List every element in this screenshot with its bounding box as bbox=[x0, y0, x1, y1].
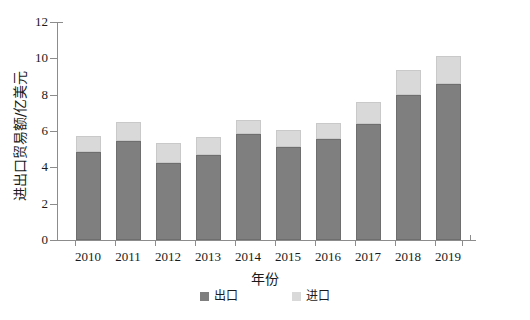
legend-label-export: 出口 bbox=[214, 290, 238, 302]
bar-segment-import bbox=[236, 120, 261, 134]
chart-legend: 出口 进口 bbox=[0, 290, 530, 302]
bar-column bbox=[436, 56, 461, 240]
bar-segment-import bbox=[156, 143, 181, 163]
bar-segment-export bbox=[116, 141, 141, 240]
legend-swatch-export-icon bbox=[200, 292, 209, 301]
y-axis-tick-label: 12 bbox=[14, 15, 48, 28]
x-axis-tick bbox=[75, 240, 76, 246]
x-axis-tick bbox=[275, 240, 276, 246]
bar-segment-export bbox=[276, 147, 301, 240]
bar-column bbox=[316, 123, 341, 240]
bar-column bbox=[236, 120, 261, 240]
x-axis-tick bbox=[355, 240, 356, 246]
bar-segment-import bbox=[276, 130, 301, 147]
y-axis-tick bbox=[50, 22, 57, 23]
bar-column bbox=[356, 102, 381, 240]
x-axis-tick bbox=[435, 240, 436, 246]
y-axis-tick bbox=[50, 95, 57, 96]
bar-segment-import bbox=[396, 70, 421, 95]
plot-area bbox=[57, 22, 475, 240]
x-axis-tick bbox=[155, 240, 156, 246]
bar-segment-import bbox=[196, 137, 221, 154]
bar-segment-export bbox=[396, 95, 421, 240]
bar-segment-export bbox=[156, 163, 181, 240]
legend-item-import: 进口 bbox=[292, 290, 330, 302]
y-axis-tick bbox=[50, 167, 57, 168]
y-axis-title: 进出口贸易额/亿美元 bbox=[9, 41, 29, 231]
bar-column bbox=[76, 136, 101, 240]
bar-column bbox=[196, 137, 221, 240]
bar-segment-import bbox=[356, 102, 381, 124]
x-axis-tick bbox=[462, 240, 463, 246]
bar-segment-import bbox=[436, 56, 461, 84]
bar-segment-export bbox=[356, 124, 381, 240]
x-axis-tick bbox=[235, 240, 236, 246]
y-axis-tick-label: 0 bbox=[14, 233, 48, 246]
x-axis-title: 年份 bbox=[0, 268, 530, 288]
x-axis-tick bbox=[195, 240, 196, 246]
legend-label-import: 进口 bbox=[306, 290, 330, 302]
bar-segment-import bbox=[116, 122, 141, 141]
x-axis-line bbox=[57, 240, 476, 241]
y-axis-tick bbox=[50, 58, 57, 59]
x-axis-tick bbox=[315, 240, 316, 246]
x-axis-tick bbox=[115, 240, 116, 246]
bar-segment-export bbox=[76, 152, 101, 240]
bar-column bbox=[156, 143, 181, 240]
bar-column bbox=[276, 130, 301, 240]
bar-segment-export bbox=[316, 139, 341, 240]
bar-segment-export bbox=[196, 155, 221, 240]
bar-column bbox=[396, 70, 421, 240]
y-axis-tick bbox=[50, 240, 57, 241]
legend-item-export: 出口 bbox=[200, 290, 238, 302]
legend-swatch-import-icon bbox=[292, 292, 301, 301]
bar-chart: 024681012 201020112012201320142015201620… bbox=[0, 0, 530, 320]
bar-column bbox=[116, 122, 141, 240]
y-axis-tick bbox=[50, 204, 57, 205]
bar-segment-export bbox=[236, 134, 261, 240]
y-axis-tick bbox=[50, 131, 57, 132]
bar-segment-export bbox=[436, 84, 461, 240]
bar-segment-import bbox=[76, 136, 101, 152]
x-axis-tick bbox=[395, 240, 396, 246]
bar-segment-import bbox=[316, 123, 341, 139]
x-axis-tick-label: 2019 bbox=[418, 250, 478, 264]
